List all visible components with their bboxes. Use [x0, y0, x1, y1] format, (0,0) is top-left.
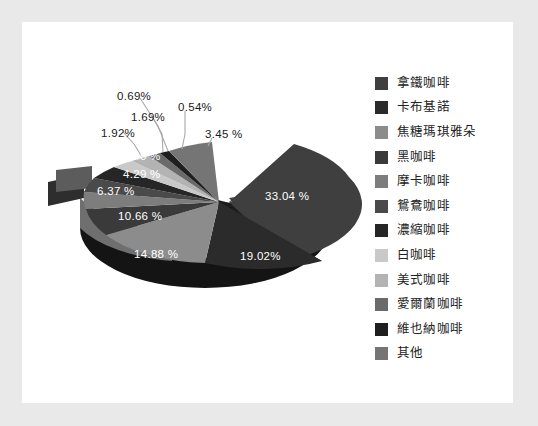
- slice-value-label: 14.88 %: [134, 248, 178, 260]
- slice-value-label: 6.37 %: [97, 185, 135, 197]
- legend-item-label: 白咖啡: [397, 249, 437, 262]
- legend-item[interactable]: 拿鐵咖啡: [375, 71, 510, 96]
- legend-item-label: 黑咖啡: [397, 151, 437, 164]
- slice-value-label: 4.29 %: [123, 168, 161, 180]
- legend-item[interactable]: 濃縮咖啡: [375, 219, 510, 244]
- slice-value-label: 3.45 %: [205, 128, 243, 140]
- legend-swatch-icon: [375, 274, 388, 287]
- legend-item-label: 摩卡咖啡: [397, 175, 450, 188]
- legend-swatch-icon: [375, 200, 388, 213]
- pie-chart-plot-area: 33.04 %19.02%14.88 %10.66 %6.37 %4.29 %3…: [22, 22, 513, 403]
- legend-swatch-icon: [375, 126, 388, 139]
- legend-item-label: 卡布基諾: [397, 101, 450, 114]
- slice-value-label: 1.92%: [101, 127, 135, 139]
- legend-item-label: 濃縮咖啡: [397, 224, 450, 237]
- legend-swatch-icon: [375, 175, 388, 188]
- screenshot-frame: 33.04 %19.02%14.88 %10.66 %6.37 %4.29 %3…: [0, 0, 538, 426]
- slice-value-label: 10.66 %: [118, 210, 162, 222]
- legend-item[interactable]: 摩卡咖啡: [375, 169, 510, 194]
- legend-item[interactable]: 愛爾蘭咖啡: [375, 292, 510, 317]
- legend-item-label: 愛爾蘭咖啡: [397, 298, 463, 311]
- legend-item[interactable]: 鴛鴦咖啡: [375, 194, 510, 219]
- legend-item[interactable]: 其他: [375, 342, 510, 367]
- chart-panel: 33.04 %19.02%14.88 %10.66 %6.37 %4.29 %3…: [22, 22, 513, 403]
- legend-swatch-icon: [375, 347, 388, 360]
- legend-item[interactable]: 美式咖啡: [375, 268, 510, 293]
- legend-item[interactable]: 卡布基諾: [375, 96, 510, 121]
- slice-value-label: 33.04 %: [265, 190, 309, 202]
- slice-value-label: 1.69%: [131, 111, 165, 123]
- legend-item[interactable]: 焦糖瑪琪雅朵: [375, 120, 510, 145]
- legend-swatch-icon: [375, 224, 388, 237]
- slice-value-label: 3.45 %: [123, 150, 161, 162]
- legend-item[interactable]: 維也納咖啡: [375, 317, 510, 342]
- legend-item-label: 其他: [397, 347, 423, 360]
- legend-item-label: 美式咖啡: [397, 274, 450, 287]
- chart-legend: 拿鐵咖啡卡布基諾焦糖瑪琪雅朵黑咖啡摩卡咖啡鴛鴦咖啡濃縮咖啡白咖啡美式咖啡愛爾蘭咖…: [375, 71, 510, 366]
- slice-value-label: 19.02%: [240, 250, 281, 262]
- legend-swatch-icon: [375, 151, 388, 164]
- legend-swatch-icon: [375, 249, 388, 262]
- legend-swatch-icon: [375, 298, 388, 311]
- legend-swatch-icon: [375, 323, 388, 336]
- legend-item-label: 維也納咖啡: [397, 323, 463, 336]
- slice-value-label: 0.69%: [117, 90, 151, 102]
- legend-item-label: 鴛鴦咖啡: [397, 200, 450, 213]
- legend-swatch-icon: [375, 101, 388, 114]
- legend-item-label: 拿鐵咖啡: [397, 77, 450, 90]
- legend-swatch-icon: [375, 77, 388, 90]
- legend-item-label: 焦糖瑪琪雅朵: [397, 126, 476, 139]
- slice-value-label: 0.54%: [178, 101, 212, 113]
- legend-item[interactable]: 黑咖啡: [375, 145, 510, 170]
- legend-item[interactable]: 白咖啡: [375, 243, 510, 268]
